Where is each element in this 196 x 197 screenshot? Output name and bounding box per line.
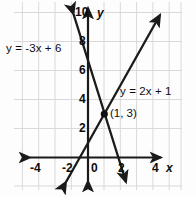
- x-tick-0: 0: [91, 162, 98, 174]
- x-axis-name-label: x: [166, 162, 173, 174]
- equation-label-2x-plus-1: y = 2x + 1: [120, 86, 172, 98]
- y-tick-4: 4: [79, 93, 86, 105]
- equation-label-neg3x-plus-6: y = -3x + 6: [6, 43, 61, 55]
- x-tick-minus-4: -4: [30, 162, 41, 174]
- y-tick-6: 6: [79, 64, 86, 76]
- y-tick-10: 10: [75, 6, 88, 18]
- graph-figure: y = -3x + 6 y = 2x + 1 (1, 3) y x 10 8 6…: [0, 0, 196, 197]
- intersection-point-label: (1, 3): [110, 108, 137, 120]
- x-tick-minus-2: -2: [62, 162, 73, 174]
- x-tick-2: 2: [118, 162, 125, 174]
- y-tick-2: 2: [79, 122, 86, 134]
- x-tick-4: 4: [152, 162, 159, 174]
- intersection-point-marker: [101, 110, 108, 117]
- y-axis-name-label: y: [97, 7, 104, 19]
- y-tick-8: 8: [79, 35, 86, 47]
